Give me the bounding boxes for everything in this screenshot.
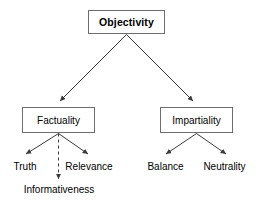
leaf-truth: Truth [8,161,42,173]
edge-impartiality-balance [166,134,197,155]
leaf-relevance: Relevance [61,161,117,173]
leaf-balance: Balance [143,161,188,173]
edge-objectivity-impartiality [127,35,194,102]
leaf-neutrality: Neutrality [197,161,252,173]
node-impartiality[interactable]: Impartiality [160,107,233,133]
node-objectivity[interactable]: Objectivity [88,10,165,34]
node-factuality[interactable]: Factuality [22,107,95,133]
edge-impartiality-neutrality [197,134,227,155]
diagram-canvas: Objectivity Factuality Impartiality Trut… [0,0,259,205]
edge-factuality-truth [26,134,59,155]
edge-factuality-relevance [59,134,89,155]
edge-objectivity-factuality [60,35,127,102]
leaf-informativeness: Informativeness [19,184,99,196]
